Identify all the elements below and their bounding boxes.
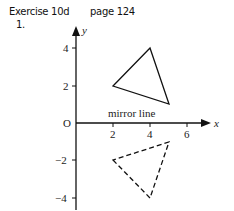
y-axis-arrow-icon xyxy=(72,26,80,36)
y-tick-4: 4 xyxy=(63,42,69,54)
object-triangle xyxy=(113,48,169,104)
mirror-line-label: mirror line xyxy=(108,107,155,119)
y-tick-neg2: −2 xyxy=(55,154,67,166)
y-axis-label: y xyxy=(81,24,87,36)
x-axis-label: x xyxy=(213,117,219,129)
coordinate-plot: 4 2 −2 −4 2 4 6 O x y mirror line xyxy=(0,0,234,211)
image-triangle xyxy=(113,142,169,198)
x-tick-6: 6 xyxy=(184,128,190,140)
y-tick-2: 2 xyxy=(63,80,69,92)
y-tick-neg4: −4 xyxy=(55,192,67,204)
x-tick-2: 2 xyxy=(110,128,116,140)
x-axis-arrow-icon xyxy=(201,119,211,127)
x-tick-4: 4 xyxy=(147,128,153,140)
origin-label: O xyxy=(63,117,71,129)
